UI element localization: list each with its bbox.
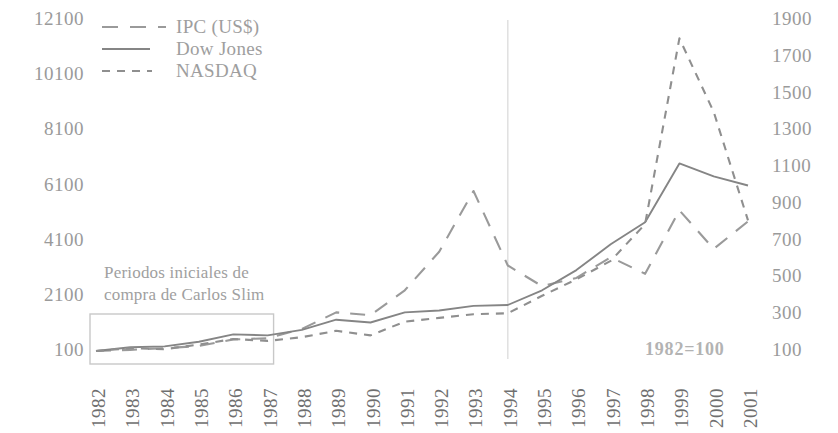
left-axis-tick: 6100 <box>44 174 84 196</box>
left-axis-tick: 8100 <box>44 118 84 140</box>
legend-item-dow-jones: Dow Jones <box>100 38 360 60</box>
left-axis-tick: 12100 <box>34 8 84 30</box>
long-dash-key <box>100 20 168 34</box>
right-axis-tick: 1700 <box>772 45 812 67</box>
x-axis-tick: 1993 <box>465 388 487 428</box>
carlos-slim-annotation: Periodos iniciales de compra de Carlos S… <box>104 262 264 306</box>
x-axis-tick: 1997 <box>603 388 625 428</box>
x-axis-tick: 1990 <box>363 388 385 428</box>
right-axis-tick: 1100 <box>772 155 811 177</box>
chart-legend: IPC (US$) Dow Jones NASDAQ <box>100 16 360 82</box>
solid-line-key <box>100 42 168 56</box>
left-axis-tick: 10100 <box>34 63 84 85</box>
x-axis-tick: 1995 <box>534 388 556 428</box>
right-axis-tick: 700 <box>772 229 802 251</box>
x-axis-tick: 1987 <box>260 388 282 428</box>
x-axis-tick: 2001 <box>740 388 762 428</box>
right-axis-tick: 300 <box>772 302 802 324</box>
right-axis-tick: 500 <box>772 265 802 287</box>
left-axis-tick: 2100 <box>44 284 84 306</box>
right-axis-tick: 100 <box>772 339 802 361</box>
short-dash-key <box>100 64 168 78</box>
x-axis-tick: 1992 <box>431 388 453 428</box>
legend-item-nasdaq: NASDAQ <box>100 60 360 82</box>
left-axis-tick: 4100 <box>44 229 84 251</box>
x-axis-tick: 1996 <box>568 388 590 428</box>
base-year-annotation: 1982=100 <box>645 339 725 360</box>
x-axis-tick: 1991 <box>397 388 419 428</box>
legend-label-ipc: IPC (US$) <box>168 16 259 38</box>
left-axis-tick: 100 <box>54 339 84 361</box>
right-axis-tick: 1500 <box>772 82 812 104</box>
legend-item-ipc: IPC (US$) <box>100 16 360 38</box>
legend-label-dow-jones: Dow Jones <box>168 38 263 60</box>
x-axis-tick: 1998 <box>637 388 659 428</box>
x-axis-tick: 1986 <box>225 388 247 428</box>
x-axis-tick: 1982 <box>88 388 110 428</box>
x-axis-tick: 1999 <box>671 388 693 428</box>
chart-page: IPC (US$) Dow Jones NASDAQ Periodos inic… <box>0 0 838 433</box>
x-axis-tick: 1988 <box>294 388 316 428</box>
x-axis-tick: 1985 <box>191 388 213 428</box>
x-axis-tick: 1984 <box>157 388 179 428</box>
right-axis-tick: 1300 <box>772 118 812 140</box>
x-axis-tick: 1994 <box>500 388 522 428</box>
x-axis-tick: 1989 <box>328 388 350 428</box>
legend-label-nasdaq: NASDAQ <box>168 60 257 82</box>
x-axis-tick: 1983 <box>122 388 144 428</box>
right-axis-tick: 900 <box>772 192 802 214</box>
right-axis-tick: 1900 <box>772 8 812 30</box>
x-axis-tick: 2000 <box>706 388 728 428</box>
